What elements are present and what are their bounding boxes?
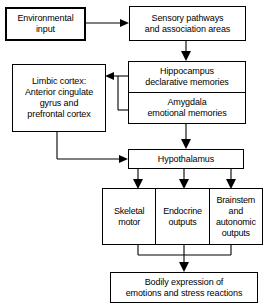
- node-memory-structures-group: Hippocampus declarative memories Amygdal…: [128, 61, 246, 124]
- node-environmental-input-label: Environmental input: [17, 13, 73, 35]
- node-hypothalamus: Hypothalamus: [128, 149, 244, 169]
- node-endocrine-outputs: Endocrine outputs: [155, 189, 208, 244]
- node-brainstem-autonomic-label: Brainstem and autonomic outputs: [216, 195, 256, 239]
- edge-hypothalamus-to-brainstem-autonomic: [226, 169, 236, 189]
- node-limbic-cortex: Limbic cortex: Anterior cingulate gyrus …: [12, 64, 106, 132]
- node-skeletal-motor: Skeletal motor: [103, 189, 155, 244]
- node-skeletal-motor-label: Skeletal motor: [114, 206, 144, 228]
- node-amygdala: Amygdala emotional memories: [129, 92, 245, 123]
- edge-hypothalamus-to-endocrine-outputs: [179, 169, 189, 189]
- node-hippocampus-label: Hippocampus declarative memories: [145, 66, 229, 88]
- node-sensory-pathways-label: Sensory pathways and association areas: [145, 13, 230, 35]
- node-hypothalamus-label: Hypothalamus: [158, 154, 214, 165]
- edge-memories-to-limbic-cortex: [105, 72, 128, 110]
- edge-limbic-cortex-to-hypothalamus: [57, 131, 128, 163]
- node-brainstem-autonomic: Brainstem and autonomic outputs: [209, 189, 262, 244]
- node-endocrine-outputs-label: Endocrine outputs: [163, 206, 202, 228]
- node-bodily-expression-label: Bodily expression of emotions and stress…: [126, 277, 243, 299]
- node-bodily-expression: Bodily expression of emotions and stress…: [110, 272, 258, 303]
- edge-outputs-to-bodily-expression: [138, 245, 231, 272]
- edge-sensory-pathways-to-hippocampus: [181, 40, 191, 61]
- edge-environmental-input-to-sensory-pathways: [86, 19, 129, 27]
- edge-hypothalamus-to-skeletal-motor: [133, 169, 143, 189]
- edge-amygdala-to-hypothalamus: [181, 124, 191, 149]
- node-environmental-input: Environmental input: [5, 7, 86, 41]
- node-amygdala-label: Amygdala emotional memories: [147, 97, 226, 119]
- emotion-stress-flowchart: Environmental input Sensory pathways and…: [0, 0, 276, 307]
- node-outputs-group: Skeletal motor Endocrine outputs Brainst…: [102, 188, 263, 245]
- node-hippocampus: Hippocampus declarative memories: [129, 62, 245, 92]
- node-sensory-pathways: Sensory pathways and association areas: [129, 6, 246, 41]
- node-limbic-cortex-label: Limbic cortex: Anterior cingulate gyrus …: [25, 76, 93, 120]
